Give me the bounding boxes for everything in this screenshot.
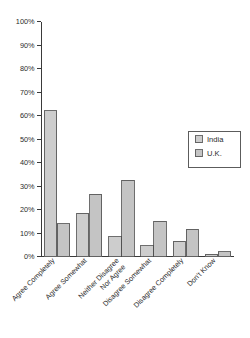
- y-tick-label: 20%: [20, 205, 35, 214]
- bar-uk-2: [122, 180, 134, 256]
- chart-legend: IndiaU.K.: [188, 131, 240, 167]
- bar-uk-3: [154, 221, 166, 256]
- x-tick-label-group: Don't Know: [185, 255, 218, 288]
- legend-swatch-uk: [195, 150, 202, 157]
- y-tick-label: 70%: [20, 88, 35, 97]
- y-tick-label: 0%: [24, 252, 35, 261]
- bar-chart: 0%10%20%30%40%50%60%70%80%90%100% Agree …: [0, 0, 250, 338]
- y-axis-ticks: 0%10%20%30%40%50%60%70%80%90%100%: [16, 17, 41, 261]
- legend-label-india: India: [207, 135, 224, 144]
- bar-uk-4: [186, 229, 198, 256]
- y-tick-label: 10%: [20, 229, 35, 238]
- y-tick-label: 50%: [20, 135, 35, 144]
- y-tick-label: 60%: [20, 111, 35, 120]
- bar-india-0: [44, 111, 56, 257]
- legend-label-uk: U.K.: [207, 149, 222, 158]
- y-tick-label: 80%: [20, 64, 35, 73]
- bar-india-3: [141, 246, 153, 257]
- y-tick-label: 100%: [16, 17, 35, 26]
- bar-uk-1: [90, 194, 102, 256]
- chart-canvas: 0%10%20%30%40%50%60%70%80%90%100% Agree …: [0, 0, 250, 338]
- bar-india-5: [205, 254, 217, 256]
- legend-swatch-india: [195, 136, 202, 143]
- bar-uk-0: [57, 224, 69, 257]
- y-tick-label: 30%: [20, 182, 35, 191]
- bar-india-1: [77, 213, 89, 256]
- y-tick-label: 40%: [20, 158, 35, 167]
- bar-india-4: [173, 241, 185, 256]
- y-tick-label: 90%: [20, 41, 35, 50]
- x-tick-label: Don't Know: [185, 255, 218, 288]
- bar-uk-5: [218, 252, 230, 257]
- bar-india-2: [109, 237, 121, 257]
- x-axis-labels: Agree CompletelyAgree SomewhatNeither Di…: [10, 255, 218, 309]
